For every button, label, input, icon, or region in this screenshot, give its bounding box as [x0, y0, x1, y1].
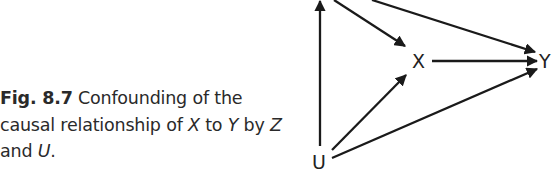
- causal-diagram: X Y U: [0, 0, 559, 189]
- edge-u-to-y: [332, 69, 537, 158]
- edge-u-to-x: [332, 75, 406, 150]
- edge-z-to-y: [372, 0, 535, 52]
- node-u: U: [312, 151, 326, 173]
- node-x: X: [412, 50, 425, 72]
- node-y: Y: [538, 50, 551, 72]
